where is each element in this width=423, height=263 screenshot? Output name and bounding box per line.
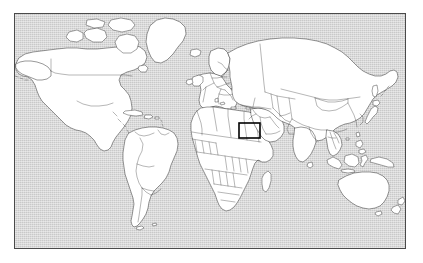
- island-hokkaido: [373, 100, 380, 106]
- island-sri-lanka: [307, 162, 313, 168]
- island-ireland: [186, 79, 193, 85]
- arctic-island-victoria: [84, 28, 107, 42]
- world-map-figure: [0, 0, 423, 263]
- island-tasmania: [375, 211, 382, 216]
- island-java: [341, 169, 355, 173]
- island-new-guinea: [370, 157, 394, 167]
- island-borneo: [344, 154, 359, 167]
- island-new-zealand-north: [398, 197, 405, 205]
- landmass-scandinavia: [209, 48, 230, 76]
- island-sulawesi: [360, 155, 368, 167]
- island-crete: [231, 107, 236, 109]
- island-sumatra: [327, 157, 342, 169]
- arctic-island-banks: [66, 30, 83, 42]
- arctic-island-nw: [86, 19, 105, 28]
- island-philippines-luzon: [356, 140, 363, 148]
- landmass-south-america: [123, 127, 178, 227]
- landmass-greenland: [146, 18, 186, 63]
- island-hainan: [346, 138, 349, 140]
- island-philippines-mindanao: [359, 149, 366, 154]
- island-tierra-del-fuego: [136, 226, 144, 230]
- landmass-indochina: [326, 130, 342, 156]
- arctic-island-newfoundland: [138, 65, 148, 72]
- landmass-iceland: [190, 49, 201, 57]
- island-madagascar: [262, 171, 271, 192]
- island-new-zealand-south: [391, 205, 401, 214]
- island-falklands: [152, 223, 157, 226]
- map-frame: [14, 13, 406, 249]
- world-map-vector: [15, 14, 405, 248]
- landmass-india: [293, 127, 316, 162]
- island-puerto-rico: [155, 117, 159, 119]
- landmass-australia: [338, 172, 389, 209]
- island-hispaniola: [144, 115, 153, 119]
- arctic-island-ellesmere: [108, 18, 135, 32]
- island-taiwan: [356, 132, 360, 137]
